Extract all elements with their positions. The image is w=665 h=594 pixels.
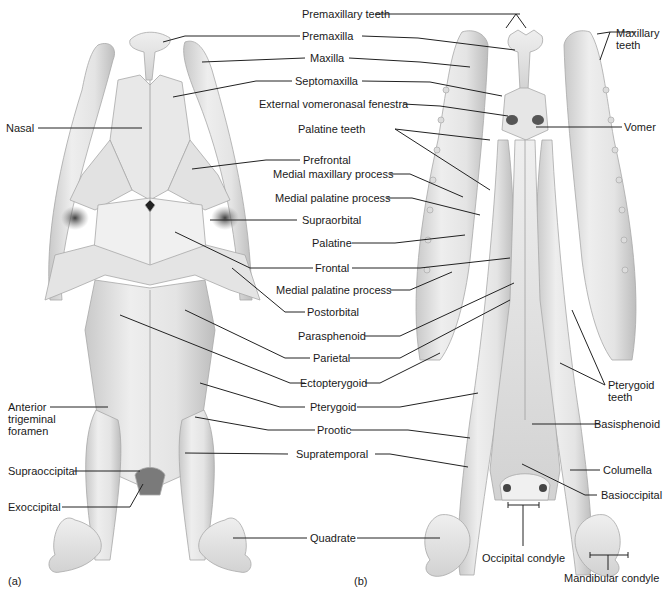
label-basisphenoid: Basisphenoid: [594, 418, 660, 430]
label-prootic: Prootic: [317, 424, 351, 436]
label-frontal: Frontal: [315, 262, 349, 274]
label-palatine-teeth: Palatine teeth: [298, 123, 365, 135]
label-medial-maxillary-process: Medial maxillary process: [273, 168, 393, 180]
panel-label-b: (b): [354, 575, 367, 587]
label-medial-palatine-process-upper: Medial palatine process: [275, 192, 391, 204]
label-pterygoid: Pterygoid: [310, 401, 356, 413]
label-external-vomeronasal-fenestra: External vomeronasal fenestra: [259, 98, 408, 110]
label-exoccipital: Exoccipital: [8, 501, 61, 513]
skull-diagram: [0, 0, 665, 594]
label-parietal: Parietal: [313, 352, 350, 364]
label-palatine: Palatine: [312, 237, 352, 249]
label-medial-palatine-process-lower: Medial palatine process: [276, 284, 392, 296]
label-nasal: Nasal: [6, 122, 34, 134]
label-columella: Columella: [603, 464, 652, 476]
label-maxillary-teeth: Maxillary teeth: [616, 27, 659, 51]
label-supraorbital: Supraorbital: [302, 214, 361, 226]
panel-label-a: (a): [8, 575, 21, 587]
label-supratemporal: Supratemporal: [296, 448, 368, 460]
dorsal-skull: [45, 32, 260, 572]
label-supraoccipital: Supraoccipital: [8, 465, 77, 477]
label-occipital-condyle: Occipital condyle: [482, 552, 565, 564]
label-pterygoid-teeth: Pterygoid teeth: [608, 379, 654, 403]
label-basioccipital: Basioccipital: [601, 489, 662, 501]
label-premaxillary-teeth: Premaxillary teeth: [302, 8, 390, 20]
label-anterior-trigeminal-foramen: Anterior trigeminal foramen: [8, 401, 56, 437]
label-premaxilla: Premaxilla: [302, 30, 353, 42]
label-prefrontal: Prefrontal: [303, 154, 351, 166]
label-postorbital: Postorbital: [307, 306, 359, 318]
label-ectopterygoid: Ectopterygoid: [300, 377, 367, 389]
label-quadrate: Quadrate: [310, 532, 356, 544]
label-maxilla: Maxilla: [310, 52, 344, 64]
label-parasphenoid: Parasphenoid: [298, 330, 366, 342]
label-vomer: Vomer: [624, 121, 656, 133]
label-septomaxilla: Septomaxilla: [295, 75, 358, 87]
label-mandibular-condyle: Mandibular condyle: [564, 572, 659, 584]
